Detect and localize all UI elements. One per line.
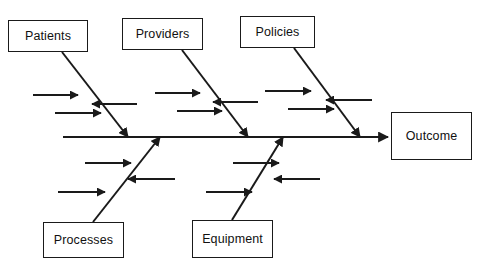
category-label-patients: Patients [25, 30, 71, 43]
category-box-equipment[interactable]: Equipment [192, 220, 273, 258]
category-label-equipment: Equipment [202, 233, 263, 246]
bone-policies [294, 48, 360, 137]
category-label-processes: Processes [54, 234, 113, 247]
fishbone-diagram-canvas: Outcome PatientsProvidersPoliciesProcess… [0, 0, 479, 273]
category-box-policies[interactable]: Policies [240, 16, 315, 48]
category-box-patients[interactable]: Patients [8, 20, 88, 52]
outcome-label: Outcome [406, 130, 457, 143]
category-box-processes[interactable]: Processes [43, 222, 124, 258]
outcome-box[interactable]: Outcome [391, 112, 472, 160]
category-box-providers[interactable]: Providers [122, 18, 203, 50]
category-label-policies: Policies [256, 26, 300, 39]
bone-group [33, 48, 388, 222]
category-label-providers: Providers [136, 28, 190, 41]
